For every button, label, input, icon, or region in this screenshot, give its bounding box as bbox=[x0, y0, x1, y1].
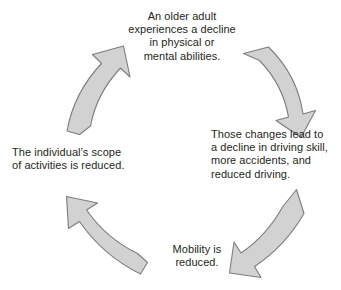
node-label-mobility: Mobility is reduced. bbox=[156, 243, 238, 269]
node-label-decline: An older adult experiences a decline in … bbox=[126, 10, 238, 63]
curved-arrow-top-left-icon bbox=[67, 46, 130, 135]
curved-arrow-bottom-right-icon bbox=[230, 190, 305, 278]
curved-arrow-top-right-icon bbox=[244, 47, 316, 138]
curved-arrow-bottom-left-icon bbox=[67, 197, 148, 275]
node-label-driving: Those changes lead to a decline in drivi… bbox=[211, 128, 335, 181]
cycle-diagram: An older adult experiences a decline in … bbox=[0, 0, 341, 290]
node-label-activities: The individual’s scope of activities is … bbox=[12, 146, 142, 172]
